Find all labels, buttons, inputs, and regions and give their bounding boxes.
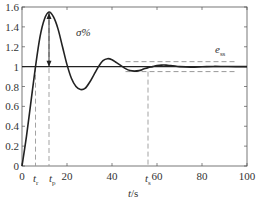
x-tick-label: 100 — [239, 170, 256, 182]
y-tick-label: 0.8 — [5, 81, 19, 93]
overshoot-arrow — [47, 13, 52, 67]
axis-ticks — [22, 7, 247, 166]
ts-label: ts — [145, 172, 151, 187]
overshoot-label: σ% — [76, 26, 91, 38]
y-axis-tick-labels: 00.20.40.60.811.21.41.6 — [5, 1, 19, 172]
y-tick-label: 1.2 — [5, 41, 19, 53]
step-response-chart: 00.20.40.60.811.21.41.6 020406080100 σ% … — [0, 0, 260, 205]
x-tick-label: 20 — [62, 170, 74, 182]
y-tick-label: 0.4 — [5, 120, 19, 132]
tp-label: tp — [49, 172, 56, 187]
step-response-curve — [22, 12, 247, 166]
y-tick-label: 1 — [14, 61, 20, 73]
ess-label: ess — [215, 43, 226, 58]
y-tick-label: 0.2 — [5, 140, 19, 152]
x-tick-label: 0 — [19, 170, 25, 182]
y-tick-label: 0.6 — [5, 100, 19, 112]
x-tick-label: 60 — [152, 170, 164, 182]
x-axis-label: t/s — [128, 187, 138, 199]
plot-frame — [22, 7, 247, 166]
y-tick-label: 1.6 — [5, 1, 19, 13]
x-tick-label: 80 — [197, 170, 209, 182]
tr-label: tr — [33, 172, 39, 187]
x-tick-label: 40 — [107, 170, 119, 182]
y-tick-label: 1.4 — [5, 21, 19, 33]
